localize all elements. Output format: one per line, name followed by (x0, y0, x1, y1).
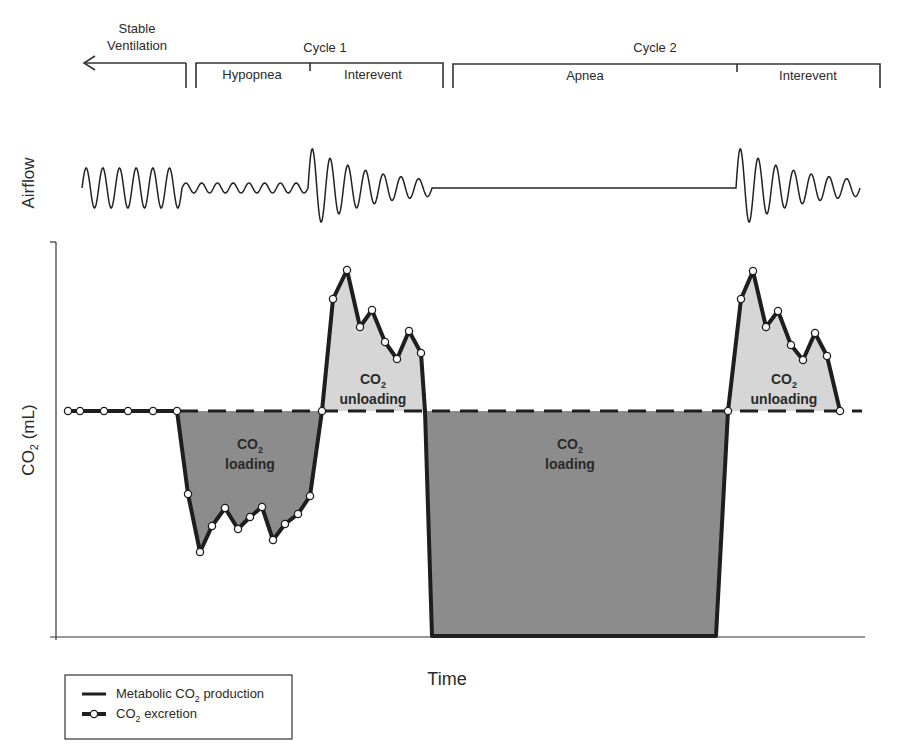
airflow-axis-label: Airflow (19, 157, 38, 209)
stable-label-2: Ventilation (107, 38, 167, 53)
interevent1-label: Interevent (344, 67, 402, 82)
time-axis-label: Time (427, 669, 466, 689)
legend: Metabolic CO2 production CO2 excretion (65, 675, 292, 739)
interevent2-label: Interevent (779, 68, 837, 83)
phase-brackets (84, 56, 880, 88)
load2-text: loading (545, 456, 595, 472)
cycle1-label: Cycle 1 (303, 40, 346, 55)
hypopnea-label: Hypopnea (222, 67, 282, 82)
co2-loading-region-1 (177, 411, 322, 552)
apnea-label: Apnea (566, 68, 604, 83)
cycle2-label: Cycle 2 (633, 40, 676, 55)
airflow-trace (82, 149, 860, 222)
co2-axis-label: CO2 (mL) (19, 404, 40, 475)
load1-text: loading (225, 456, 275, 472)
stable-label-1: Stable (119, 21, 156, 36)
unload1-text: unloading (340, 391, 407, 407)
unload2-text: unloading (751, 391, 818, 407)
ventilation-co2-diagram: Stable Ventilation Cycle 1 Hypopnea Inte… (0, 0, 900, 755)
